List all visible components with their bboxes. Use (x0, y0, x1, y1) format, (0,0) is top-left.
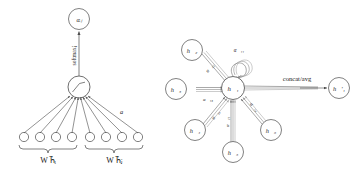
node-h5-label: h⃗₅ (228, 149, 238, 156)
node-h4-label: h⃗₄ (190, 127, 200, 134)
softmax-label: softmaxⱼ (71, 46, 77, 65)
node-h6-label: h⃗₆ (266, 127, 276, 134)
node-h1-label: h⃗₁ (227, 85, 238, 92)
node-h3: h⃗₃ (166, 79, 187, 100)
node-h1-prime-output: h⃗′₁ (329, 78, 350, 99)
node-h2: h⃗₂ (182, 40, 203, 61)
node-h1-prime-label: h⃗′₁ (333, 85, 345, 92)
node-h3-label: h⃗₃ (171, 86, 181, 93)
node-h6: h⃗₆ (261, 120, 282, 141)
node-h1-center: h⃗₁ (222, 77, 245, 100)
edge-label-alpha-13: α⃗₁₃ (203, 97, 213, 102)
gat-figure: αᵢⱼ softmaxⱼ a⃗ (0, 0, 360, 174)
node-h5: h⃗₅ (223, 142, 244, 163)
node-h4: h⃗₄ (185, 120, 206, 141)
brace-right-label: W h⃗ⱼ (106, 155, 121, 165)
concat-avg-label: concat/avg (283, 75, 312, 82)
self-loop-alpha-label: α⃗₁₁ (234, 47, 245, 53)
node-h2-label: h⃗₂ (187, 47, 198, 54)
attention-vector-label: a⃗ (120, 108, 128, 115)
edge-label-alpha-15: α⃗₁₅ (225, 117, 230, 127)
brace-left-label: W h⃗ᵢ (40, 155, 56, 165)
